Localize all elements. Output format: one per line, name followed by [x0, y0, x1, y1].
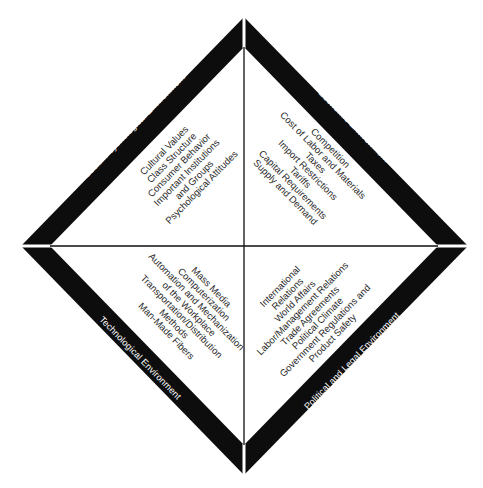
- band-gap-bottom: [243, 444, 246, 478]
- band-gap-top: [243, 14, 246, 48]
- band-gap-right: [436, 245, 472, 248]
- environment-diamond-diagram: Social/Psychological Environment Economi…: [0, 0, 483, 488]
- band-gap-left: [18, 245, 52, 248]
